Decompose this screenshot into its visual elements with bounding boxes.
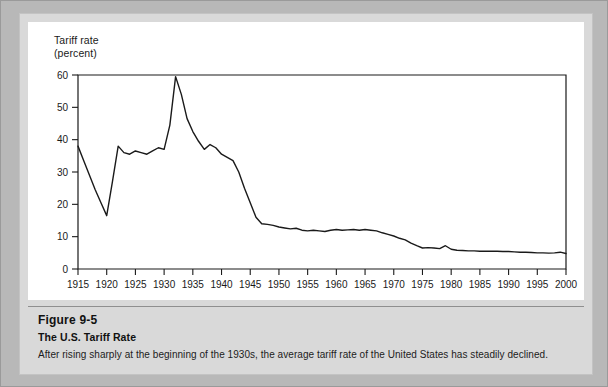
figure-caption-text: After rising sharply at the beginning of… xyxy=(38,349,578,360)
x-axis-tick-label: 1950 xyxy=(268,279,291,290)
x-axis-tick-label: 1970 xyxy=(383,279,406,290)
x-axis-tick-label: 1960 xyxy=(325,279,348,290)
figure-number: Figure 9-5 xyxy=(38,313,97,327)
chart-plot-area: Tariff rate (percent) 010203040506019151… xyxy=(28,22,584,300)
figure-title: The U.S. Tariff Rate xyxy=(38,331,136,343)
tariff-rate-line-chart: 0102030405060191519201925193019351940194… xyxy=(28,22,584,300)
x-axis-tick-label: 1915 xyxy=(67,279,90,290)
x-axis-tick-label: 1945 xyxy=(239,279,262,290)
y-axis-tick-label: 40 xyxy=(57,134,69,145)
y-axis-tick-label: 60 xyxy=(57,70,69,81)
x-axis-tick-label: 1975 xyxy=(411,279,434,290)
x-axis-tick-label: 1925 xyxy=(124,279,147,290)
x-axis-tick-label: 1940 xyxy=(210,279,233,290)
x-axis-tick-label: 2000 xyxy=(555,279,578,290)
figure-root: Tariff rate (percent) 010203040506019151… xyxy=(0,0,608,387)
tariff-rate-series-line xyxy=(78,77,566,254)
x-axis-tick-label: 1980 xyxy=(440,279,463,290)
plot-frame xyxy=(78,75,566,269)
x-axis-tick-label: 1985 xyxy=(469,279,492,290)
y-axis-tick-label: 30 xyxy=(57,167,69,178)
x-axis-tick-label: 1965 xyxy=(354,279,377,290)
x-axis-tick-label: 1990 xyxy=(497,279,520,290)
figure-caption-block: Figure 9-5 The U.S. Tariff Rate After ri… xyxy=(28,306,584,368)
y-axis-tick-label: 20 xyxy=(57,199,69,210)
x-axis-tick-label: 1955 xyxy=(297,279,320,290)
figure-panel: Tariff rate (percent) 010203040506019151… xyxy=(20,14,592,374)
caption-divider xyxy=(28,306,584,307)
x-axis-tick-label: 1930 xyxy=(153,279,176,290)
x-axis-tick-label: 1935 xyxy=(182,279,205,290)
x-axis-tick-label: 1995 xyxy=(526,279,549,290)
y-axis-tick-label: 0 xyxy=(62,264,68,275)
y-axis-tick-label: 50 xyxy=(57,102,69,113)
x-axis-tick-label: 1920 xyxy=(96,279,119,290)
y-axis-tick-label: 10 xyxy=(57,231,69,242)
